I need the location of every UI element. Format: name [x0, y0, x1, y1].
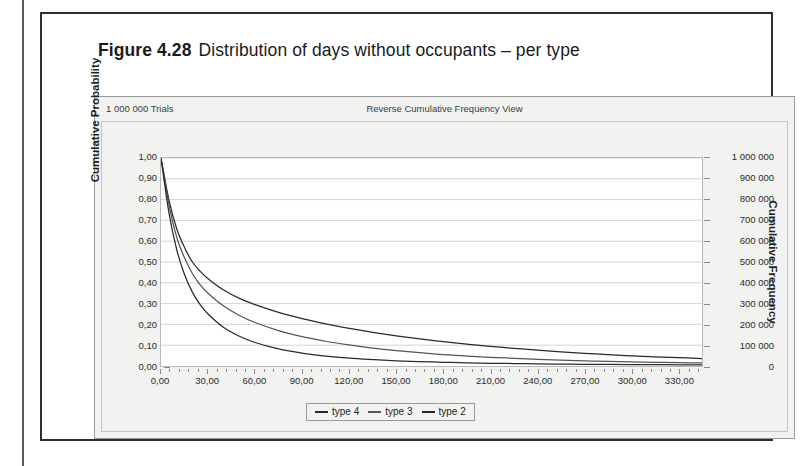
y-tick-label: 0,00: [113, 361, 157, 372]
y2-tick-label: 800 000: [712, 193, 774, 204]
y2-axis-ticks: 0100 000200 000300 000400 000500 000600 …: [704, 157, 774, 367]
x-axis-ticks: 0,0030,0060,0090,00120,00150,00180,00210…: [160, 369, 703, 391]
y2-tick-mark: [704, 241, 710, 242]
page-margin-rule: [22, 0, 24, 466]
y-tick-label: 0,50: [113, 256, 157, 267]
y2-tick-mark: [704, 283, 710, 284]
figure-caption: Figure 4.28Distribution of days without …: [98, 40, 580, 61]
x-tick-mark: [236, 369, 237, 372]
x-tick-mark: [453, 369, 454, 372]
series-curve: [161, 158, 702, 365]
x-tick-mark: [207, 369, 208, 374]
x-tick-mark: [509, 369, 510, 372]
legend-label: type 4: [332, 406, 359, 417]
x-tick-mark: [349, 369, 350, 374]
y2-tick-mark: [704, 157, 710, 158]
y2-tick-mark: [704, 178, 710, 179]
x-tick-mark: [443, 369, 444, 374]
view-title: Reverse Cumulative Frequency View: [95, 103, 794, 114]
x-tick-mark: [387, 369, 388, 372]
x-tick-mark: [434, 369, 435, 372]
y-tick-label: 1,00: [113, 151, 157, 162]
y-tick-mark: [164, 367, 170, 368]
y2-tick-label: 100 000: [712, 340, 774, 351]
x-tick-mark: [311, 369, 312, 372]
y-tick-label: 0,10: [113, 340, 157, 351]
y2-tick-label: 900 000: [712, 172, 774, 183]
y-axis-ticks: 0,000,100,200,300,400,500,600,700,800,90…: [107, 157, 157, 367]
y-tick-label: 0,80: [113, 193, 157, 204]
x-tick-mark: [585, 369, 586, 374]
y-tick-label: 0,70: [113, 214, 157, 225]
curve-plot: [161, 158, 702, 366]
chart-legend: type 4type 3type 2: [306, 403, 475, 421]
x-tick-mark: [500, 369, 501, 372]
x-tick-mark: [613, 369, 614, 372]
x-tick-mark: [462, 369, 463, 372]
x-tick-mark: [264, 369, 265, 372]
x-tick-mark: [198, 369, 199, 372]
legend-item[interactable]: type 4: [315, 406, 359, 417]
legend-item[interactable]: type 2: [422, 406, 466, 417]
x-tick-mark: [566, 369, 567, 372]
x-tick-mark: [594, 369, 595, 372]
y2-tick-label: 500 000: [712, 256, 774, 267]
x-tick-mark: [160, 369, 161, 374]
x-tick-mark: [651, 369, 652, 372]
x-tick-mark: [698, 369, 699, 372]
x-tick-mark: [358, 369, 359, 372]
y2-tick-mark: [704, 346, 710, 347]
y2-tick-mark: [704, 262, 710, 263]
x-tick-mark: [689, 369, 690, 372]
y2-tick-label: 600 000: [712, 235, 774, 246]
y2-tick-label: 200 000: [712, 319, 774, 330]
y-tick-label: 0,60: [113, 235, 157, 246]
legend-label: type 3: [385, 406, 412, 417]
figure-number: Figure 4.28: [98, 40, 192, 60]
y-axis-title: Cumulative Probability: [89, 15, 101, 225]
y-tick-label: 0,30: [113, 298, 157, 309]
x-tick-mark: [623, 369, 624, 372]
x-tick-label: 330,00: [649, 375, 709, 386]
legend-line-icon: [368, 411, 381, 413]
series-curve: [161, 158, 702, 359]
y-tick-label: 0,20: [113, 319, 157, 330]
legend-item[interactable]: type 3: [368, 406, 412, 417]
x-tick-mark: [368, 369, 369, 372]
x-tick-mark: [302, 369, 303, 374]
x-tick-mark: [245, 369, 246, 372]
x-tick-mark: [377, 369, 378, 372]
y2-tick-mark: [704, 325, 710, 326]
x-tick-mark: [226, 369, 227, 372]
x-tick-mark: [254, 369, 255, 374]
y-tick-label: 0,90: [113, 172, 157, 183]
y2-tick-label: 400 000: [712, 277, 774, 288]
chart-panel: 1 000 000 Trials Reverse Cumulative Freq…: [94, 96, 795, 439]
y-tick-label: 0,40: [113, 277, 157, 288]
y2-tick-label: 0: [712, 361, 774, 372]
x-tick-mark: [179, 369, 180, 372]
x-tick-mark: [576, 369, 577, 372]
legend-line-icon: [315, 411, 328, 413]
legend-label: type 2: [439, 406, 466, 417]
y2-tick-mark: [704, 199, 710, 200]
x-tick-mark: [406, 369, 407, 372]
y2-tick-mark: [704, 220, 710, 221]
x-tick-mark: [273, 369, 274, 372]
figure-screenshot: Figure 4.28Distribution of days without …: [0, 0, 803, 466]
figure-box: Figure 4.28Distribution of days without …: [40, 12, 773, 441]
legend-line-icon: [422, 411, 435, 413]
y2-tick-mark: [704, 367, 710, 368]
x-tick-mark: [547, 369, 548, 372]
plot-area: [160, 157, 703, 367]
figure-caption-text: Distribution of days without occupants –…: [192, 40, 580, 60]
y2-tick-mark: [704, 304, 710, 305]
x-tick-mark: [519, 369, 520, 372]
x-tick-mark: [188, 369, 189, 372]
x-tick-mark: [396, 369, 397, 374]
series-curve: [161, 158, 702, 363]
x-tick-mark: [169, 369, 170, 372]
x-tick-mark: [415, 369, 416, 372]
x-tick-mark: [292, 369, 293, 372]
y2-tick-label: 700 000: [712, 214, 774, 225]
